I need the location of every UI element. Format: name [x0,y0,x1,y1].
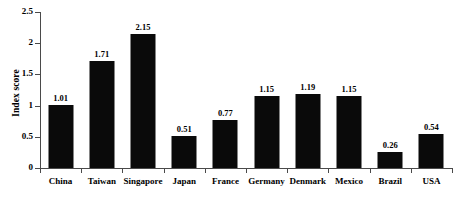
y-axis-tick-label: 2 [29,37,34,47]
x-axis-tick-mark [452,168,453,173]
bar[interactable] [172,136,197,168]
y-axis-tick-label: 0 [29,162,34,172]
x-axis-category-label: Japan [172,176,196,186]
plot-area: 1.011.712.150.510.771.151.191.150.260.54 [40,12,452,168]
bar-value-label: 1.19 [300,82,315,92]
x-axis-category-label: Denmark [290,176,327,186]
x-axis-tick-mark [370,168,371,173]
bar-value-label: 2.15 [136,22,151,32]
bar-group: 1.15 [246,12,287,168]
bar-group: 1.71 [81,12,122,168]
bar-group: 2.15 [122,12,163,168]
bar-group: 0.77 [205,12,246,168]
bar-group: 1.19 [287,12,328,168]
bar-value-label: 0.54 [424,122,439,132]
y-axis-tick-label: 1 [29,100,34,110]
bar[interactable] [89,61,114,168]
x-axis-tick-mark [287,168,288,173]
x-axis-category-label: Germany [248,176,285,186]
bar-group: 0.51 [164,12,205,168]
bar-group: 1.15 [328,12,369,168]
x-axis-category-label: Mexico [335,176,363,186]
y-axis-tick-label: 0.5 [22,131,33,141]
x-axis-tick-mark [122,168,123,173]
x-axis-tick-mark [40,168,41,173]
bar-group: 0.26 [370,12,411,168]
bar[interactable] [378,152,403,168]
bar-value-label: 0.26 [383,140,398,150]
bar-value-label: 1.15 [342,84,357,94]
x-axis-tick-mark [411,168,412,173]
bar-value-label: 1.01 [53,93,68,103]
x-axis-tick-mark [164,168,165,173]
x-axis-tick-mark [328,168,329,173]
bar-chart: Index score 00.511.522.5 1.011.712.150.5… [0,0,455,198]
x-axis-tick-mark [81,168,82,173]
y-axis-title: Index score [11,48,21,138]
bar[interactable] [130,34,155,168]
x-axis-tick-mark [246,168,247,173]
y-axis-tick-label: 2.5 [22,6,33,16]
x-axis-category-label: Singapore [124,176,163,186]
bar[interactable] [336,96,361,168]
x-axis-category-label: France [212,176,239,186]
bar-value-label: 0.51 [177,124,192,134]
x-axis-category-label: China [49,176,73,186]
bar[interactable] [295,94,320,168]
bar-group: 1.01 [40,12,81,168]
y-axis-tick-label: 1.5 [22,68,33,78]
bar[interactable] [48,105,73,168]
x-axis-category-label: Taiwan [88,176,116,186]
bar-group: 0.54 [411,12,452,168]
x-axis-tick-mark [205,168,206,173]
bar-value-label: 1.71 [94,49,109,59]
bar[interactable] [254,96,279,168]
bar-value-label: 0.77 [218,108,233,118]
bar-value-label: 1.15 [259,84,274,94]
x-axis-category-label: Brazil [378,176,402,186]
bar[interactable] [213,120,238,168]
bar[interactable] [419,134,444,168]
x-axis-category-label: USA [422,176,440,186]
